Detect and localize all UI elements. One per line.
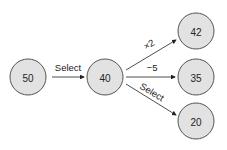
node-42: 42 <box>178 13 214 49</box>
edge-label-times-two: ×2 <box>141 37 156 52</box>
operation-tree-diagram: Select ×2 −5 Select 50 40 42 35 20 <box>0 0 227 150</box>
edge-label-select: Select <box>55 62 82 73</box>
svg-text:40: 40 <box>99 73 111 84</box>
edge-40-to-20: Select <box>126 80 176 115</box>
node-35: 35 <box>178 59 214 95</box>
node-20: 20 <box>178 103 214 139</box>
svg-text:42: 42 <box>190 27 202 38</box>
svg-text:50: 50 <box>22 73 34 84</box>
edge-label-minus-five: −5 <box>147 62 158 73</box>
edge-40-to-35: −5 <box>126 62 175 77</box>
node-40: 40 <box>87 59 123 95</box>
edge-50-to-40: Select <box>52 62 84 77</box>
node-50: 50 <box>10 59 46 95</box>
svg-text:20: 20 <box>190 117 202 128</box>
svg-text:35: 35 <box>190 73 202 84</box>
